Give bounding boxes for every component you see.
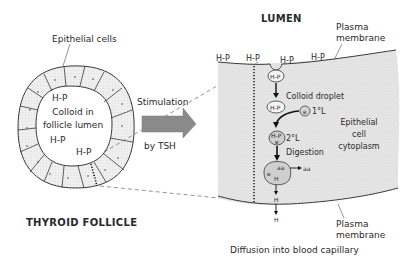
digest-aa: aa: [277, 164, 284, 171]
digest-h: H: [274, 175, 279, 182]
colloid-label-line1: Colloid in: [46, 107, 100, 118]
h-mid: H: [274, 196, 279, 203]
epithelial-cells-label: Epithelial cells: [52, 34, 117, 45]
digestion-label: Digestion: [286, 147, 324, 158]
diffusion-footer: Diffusion into blood capillary: [230, 245, 359, 256]
droplet-hp: H-P: [270, 104, 280, 111]
cytoplasm-label-line2: cell: [334, 129, 384, 141]
plasma-membrane-top-line1: Plasma: [336, 22, 368, 33]
plasma-membrane-bottom-line1: Plasma: [336, 219, 368, 230]
stimulation-label: Stimulation: [137, 97, 188, 108]
plasma-membrane-top-line2: membrane: [336, 33, 385, 44]
cytoplasm-label-line3: cytoplasm: [334, 141, 384, 153]
colloid-label-line2: follicle lumen: [42, 120, 104, 131]
membrane-bottom-leader: [338, 204, 344, 218]
epithelial-leader: [63, 44, 70, 66]
digest-e: e: [267, 170, 271, 177]
h-out: H: [274, 216, 279, 223]
colloid-droplet-label: Colloid droplet: [286, 91, 344, 102]
hp-label-3: H-P: [76, 147, 91, 158]
by-tsh-label: by TSH: [144, 141, 176, 152]
secondary-lysosome-e: e: [275, 138, 279, 145]
surface-hp-2: H-P: [246, 53, 260, 64]
surface-hp-1: H-P: [216, 53, 230, 64]
plasma-membrane-bottom-line2: membrane: [336, 230, 385, 241]
primary-lysosome-label: 1°L: [312, 106, 326, 117]
lumen-label: LUMEN: [261, 13, 302, 24]
aa-out: aa: [303, 165, 310, 172]
hp-label-1: H-P: [52, 93, 67, 104]
surface-hp-3: H-P: [280, 55, 294, 66]
surface-hp-4: H-P: [311, 52, 325, 63]
hp-label-2: H-P: [50, 135, 65, 146]
thyroid-follicle-title: THYROID FOLLICLE: [26, 217, 137, 228]
stimulation-arrow: [142, 108, 196, 138]
vesicle-hp: H-P: [270, 73, 280, 80]
cytoplasm-label-line1: Epithelial: [334, 117, 384, 129]
primary-lysosome-symbol: e: [303, 108, 307, 115]
secondary-lysosome-label: 2°L: [286, 133, 300, 144]
